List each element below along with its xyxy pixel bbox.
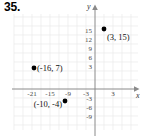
point-marker bbox=[32, 66, 37, 71]
y-tick: -6 bbox=[86, 104, 92, 112]
y-tick: -9 bbox=[86, 113, 92, 121]
axis-arrowheads bbox=[92, 5, 139, 92]
x-tick: -15 bbox=[45, 90, 55, 98]
point-label: (-16, 7) bbox=[37, 63, 63, 73]
axis-lines bbox=[12, 10, 134, 136]
y-tick: 12 bbox=[85, 36, 93, 44]
data-point: (3, 15) bbox=[102, 27, 130, 42]
x-tick-labels: -21 -15 -9 -3 3 bbox=[27, 90, 115, 98]
y-axis-label: y bbox=[86, 2, 91, 11]
x-tick: -9 bbox=[65, 90, 71, 98]
point-marker bbox=[63, 99, 68, 104]
x-axis-label: x bbox=[135, 91, 140, 100]
y-tick: 3 bbox=[89, 63, 93, 71]
exercise-figure: 35. bbox=[0, 0, 144, 138]
x-tick: 3 bbox=[111, 90, 115, 98]
x-tick: -21 bbox=[27, 90, 37, 98]
y-axis-arrow bbox=[92, 5, 98, 11]
y-tick: 9 bbox=[89, 45, 93, 53]
y-tick: 6 bbox=[89, 54, 93, 62]
coordinate-plane-graph: x y 15 12 9 6 3 -3 -6 -9 -21 -15 -9 -3 3… bbox=[0, 0, 144, 138]
data-point: (-16, 7) bbox=[32, 63, 63, 73]
x-tick: -3 bbox=[83, 90, 89, 98]
y-tick: 15 bbox=[85, 27, 93, 35]
data-point: (-10, -4) bbox=[34, 99, 68, 109]
point-marker bbox=[102, 27, 107, 32]
point-label: (-10, -4) bbox=[34, 99, 62, 109]
point-label: (3, 15) bbox=[107, 32, 130, 42]
